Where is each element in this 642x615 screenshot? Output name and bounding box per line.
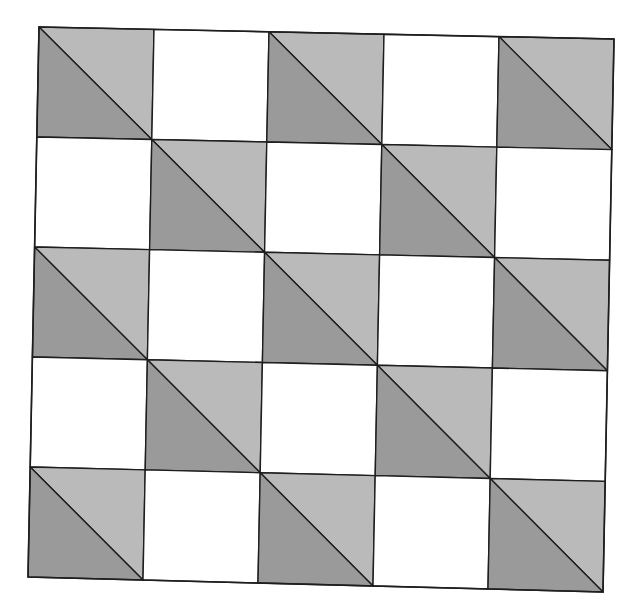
blank-cell: [490, 368, 607, 481]
blank-cell: [152, 29, 269, 142]
blank-cell: [373, 476, 490, 589]
blank-cell: [377, 255, 494, 368]
blank-cell: [147, 250, 264, 363]
blank-cell: [260, 363, 377, 476]
checkerboard-triangle-grid: [0, 0, 642, 615]
blank-cell: [35, 137, 152, 250]
diagram-canvas: [0, 0, 642, 615]
blank-cell: [265, 142, 382, 255]
blank-cell: [382, 34, 499, 147]
blank-cell: [30, 357, 147, 470]
blank-cell: [143, 470, 260, 583]
blank-cell: [495, 147, 612, 260]
